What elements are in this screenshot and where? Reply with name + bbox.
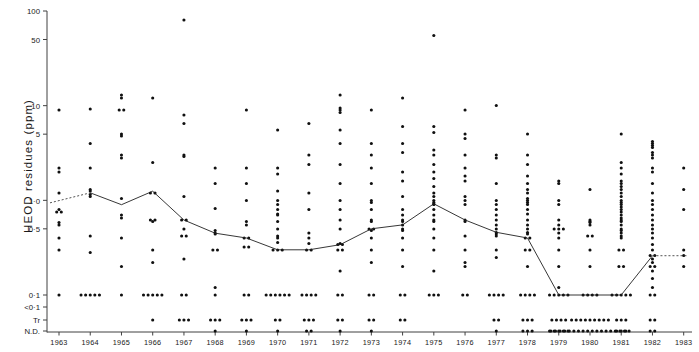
data-point (339, 218, 342, 221)
data-point (211, 248, 214, 251)
data-point (495, 208, 498, 211)
data-point (464, 153, 467, 156)
data-point (563, 329, 566, 332)
data-point (89, 166, 92, 169)
median-polyline (90, 191, 652, 295)
data-point (554, 329, 557, 332)
data-point (276, 166, 279, 169)
data-point (245, 223, 248, 226)
data-point (341, 248, 344, 251)
data-point (588, 318, 591, 321)
data-point (651, 208, 654, 211)
data-point (528, 293, 531, 296)
data-point (307, 242, 310, 245)
data-point (57, 221, 60, 224)
data-point (307, 191, 310, 194)
data-point (339, 208, 342, 211)
data-point (60, 210, 63, 213)
data-point (649, 293, 652, 296)
data-point (89, 251, 92, 254)
data-point (57, 293, 60, 296)
data-point (649, 318, 652, 321)
data-point (620, 229, 623, 232)
data-point (526, 227, 529, 230)
data-point (653, 293, 656, 296)
data-point (142, 293, 145, 296)
data-point (555, 318, 558, 321)
data-point (497, 293, 500, 296)
data-point (276, 203, 279, 206)
data-point (401, 151, 404, 154)
data-point (276, 220, 279, 223)
data-point (432, 269, 435, 272)
data-point (57, 170, 60, 173)
data-point (526, 218, 529, 221)
data-point (495, 218, 498, 221)
data-point (622, 248, 625, 251)
data-point (370, 261, 373, 264)
data-point (401, 96, 404, 99)
data-point (245, 108, 248, 111)
data-point (401, 229, 404, 232)
data-point (495, 329, 498, 332)
data-point (651, 203, 654, 206)
data-point (526, 191, 529, 194)
data-point (586, 234, 589, 237)
data-point (620, 203, 623, 206)
data-point (214, 286, 217, 289)
data-point (307, 163, 310, 166)
data-point (593, 318, 596, 321)
data-point (651, 277, 654, 280)
data-point (495, 199, 498, 202)
chart-figure: HEOD residues (ppm) 100501051·00·50·1<0·… (0, 0, 699, 352)
data-point (214, 318, 217, 321)
data-point (464, 261, 467, 264)
y-axis: 100501051·00·50·1<0·1TrN.D. (24, 7, 47, 336)
data-point (526, 188, 529, 191)
data-point (245, 182, 248, 185)
data-point (651, 213, 654, 216)
y-tick-label: 100 (27, 7, 41, 16)
data-point (432, 195, 435, 198)
data-point (276, 241, 279, 244)
data-point (122, 108, 125, 111)
data-point (182, 113, 185, 116)
data-point (341, 293, 344, 296)
data-point (464, 248, 467, 251)
data-point (620, 195, 623, 198)
y-tick-label: 10 (31, 102, 40, 111)
data-point (651, 231, 654, 234)
data-point (653, 265, 656, 268)
data-point (651, 236, 654, 239)
data-point (557, 218, 560, 221)
data-point (274, 293, 277, 296)
data-point (370, 329, 373, 332)
data-point (495, 223, 498, 226)
data-point (577, 329, 580, 332)
data-point (401, 170, 404, 173)
data-point (557, 203, 560, 206)
data-point (584, 318, 587, 321)
data-point (464, 265, 467, 268)
data-point (370, 236, 373, 239)
data-point (269, 293, 272, 296)
data-point (651, 248, 654, 251)
data-point (651, 151, 654, 154)
x-tick-label: 1970 (269, 338, 286, 347)
data-point (533, 293, 536, 296)
data-point (305, 293, 308, 296)
data-point (526, 153, 529, 156)
data-point (653, 329, 656, 332)
data-point (339, 163, 342, 166)
data-point (243, 293, 246, 296)
data-point (560, 318, 563, 321)
data-point (651, 146, 654, 149)
data-point (651, 286, 654, 289)
data-point (339, 93, 342, 96)
data-point (526, 208, 529, 211)
data-point (464, 234, 467, 237)
data-point (575, 318, 578, 321)
data-point (370, 201, 373, 204)
data-point (432, 213, 435, 216)
data-point (464, 108, 467, 111)
